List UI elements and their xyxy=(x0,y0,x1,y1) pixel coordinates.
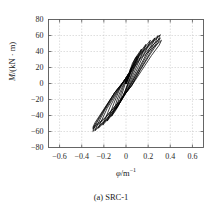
figure-caption: (a) SRC-1 xyxy=(11,192,211,202)
hysteresis-curves xyxy=(93,35,162,132)
x-tick-label: 0.6 xyxy=(179,153,205,161)
y-tick-label: −60 xyxy=(18,128,44,136)
y-tick-label: 20 xyxy=(18,64,44,72)
y-tick-label: 40 xyxy=(18,48,44,56)
plot-area: −80−60−40−20020406080 −0.6−0.4−0.200.20.… xyxy=(0,0,222,218)
y-tick-label: 80 xyxy=(18,16,44,24)
y-tick-label: −40 xyxy=(18,112,44,120)
y-tick-label: 0 xyxy=(18,80,44,88)
y-tick-label: −20 xyxy=(18,96,44,104)
y-tick-label: 60 xyxy=(18,32,44,40)
figure-src-1: −80−60−40−20020406080 −0.6−0.4−0.200.20.… xyxy=(0,0,222,218)
x-axis-title: φ/m−1 xyxy=(48,168,204,178)
y-axis-title: M/(kN · m) xyxy=(8,22,17,102)
y-tick-label: −80 xyxy=(18,144,44,152)
